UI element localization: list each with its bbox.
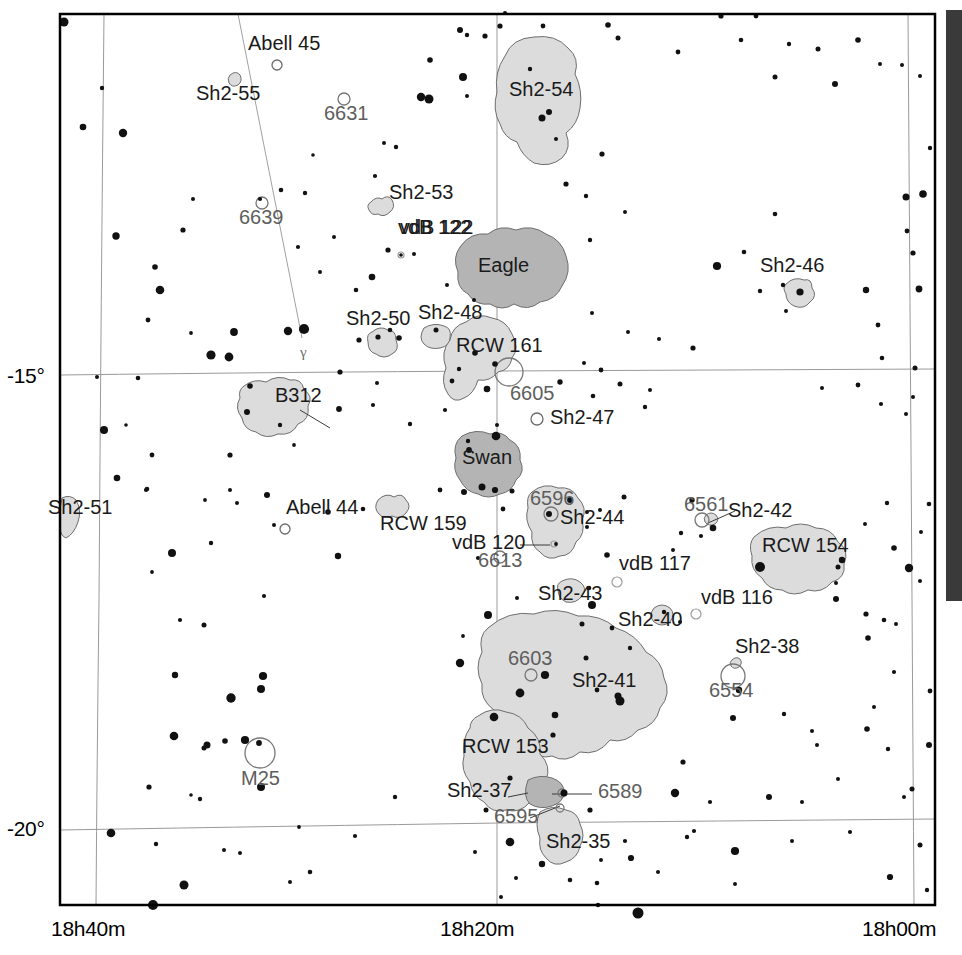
star	[336, 406, 342, 412]
star	[230, 328, 238, 336]
star	[623, 839, 627, 843]
star	[332, 235, 336, 239]
star	[226, 693, 235, 702]
star	[189, 331, 193, 335]
star	[680, 759, 685, 764]
star	[891, 545, 897, 551]
star	[247, 383, 253, 389]
star	[279, 188, 284, 193]
star	[244, 409, 250, 415]
label-sh2-48: Sh2-48	[418, 301, 483, 323]
star	[885, 501, 889, 505]
label-vdb-120: vdB 120	[452, 531, 525, 553]
star	[904, 412, 908, 416]
star	[880, 356, 885, 361]
star	[588, 238, 592, 242]
star	[590, 311, 594, 315]
page-margin-bar	[946, 10, 962, 601]
star	[482, 33, 487, 38]
label-6561: 6561	[684, 493, 729, 515]
star	[685, 835, 689, 839]
star	[492, 361, 498, 367]
star	[699, 534, 703, 538]
label-sh2-42: Sh2-42	[728, 499, 793, 521]
star	[225, 353, 234, 362]
star	[865, 635, 871, 641]
label-sh2-53: Sh2-53	[389, 181, 454, 203]
nebula-region-sh2-50	[368, 328, 398, 357]
star	[119, 129, 127, 137]
star	[506, 838, 515, 847]
star	[910, 250, 915, 255]
star	[584, 656, 589, 661]
star	[692, 829, 696, 833]
star	[258, 197, 262, 201]
star	[100, 86, 104, 90]
star	[257, 685, 265, 693]
star	[790, 839, 794, 843]
label-sh2-54: Sh2-54	[509, 78, 574, 100]
star	[894, 622, 898, 626]
star	[204, 742, 211, 749]
star	[905, 229, 910, 234]
star	[882, 618, 887, 623]
star	[918, 843, 923, 848]
star	[610, 626, 615, 631]
star	[863, 287, 869, 293]
label-sh2-43: Sh2-43	[538, 582, 603, 604]
star	[800, 800, 804, 804]
star	[927, 502, 932, 507]
star	[599, 151, 604, 156]
star	[528, 67, 532, 71]
star	[832, 81, 838, 87]
star	[288, 880, 292, 884]
star	[554, 542, 558, 546]
star	[810, 729, 814, 733]
star	[168, 549, 176, 557]
star	[582, 361, 586, 365]
star	[80, 124, 87, 131]
star	[222, 848, 226, 852]
star	[492, 432, 501, 441]
star	[170, 732, 179, 741]
star	[303, 191, 307, 195]
star	[396, 335, 402, 341]
star	[739, 38, 744, 43]
star	[892, 670, 896, 674]
label-vdb-116: vdB 116	[701, 586, 773, 608]
star	[557, 379, 562, 384]
star	[311, 153, 315, 157]
star	[457, 27, 463, 33]
star	[484, 611, 492, 619]
star	[626, 330, 630, 334]
star	[876, 323, 881, 328]
star	[438, 488, 443, 493]
star	[299, 324, 309, 334]
star	[928, 689, 933, 694]
star	[773, 75, 778, 80]
star	[591, 394, 596, 399]
star	[484, 386, 491, 393]
star	[417, 93, 425, 101]
star	[911, 395, 915, 399]
star	[499, 895, 503, 899]
star	[563, 181, 568, 186]
star	[209, 541, 213, 545]
star	[145, 487, 150, 492]
star	[919, 190, 927, 198]
label-m25: M25	[241, 767, 280, 789]
star	[568, 878, 573, 883]
label-sh2-55: Sh2-55	[196, 82, 261, 104]
sky-map-canvas[interactable]: Sh2-54EagleSh2-53vdB 122Sh2-50Sh2-48RCW …	[0, 0, 962, 955]
star	[856, 383, 861, 388]
star	[296, 245, 300, 249]
star	[490, 713, 499, 722]
star	[766, 794, 772, 800]
star	[710, 525, 717, 532]
star	[599, 858, 603, 862]
star	[784, 309, 788, 313]
star	[292, 443, 296, 447]
label-sh2-44: Sh2-44	[560, 506, 625, 528]
label-vdb-117: vdB 117	[619, 552, 691, 574]
label-rcw-154: RCW 154	[762, 534, 849, 556]
